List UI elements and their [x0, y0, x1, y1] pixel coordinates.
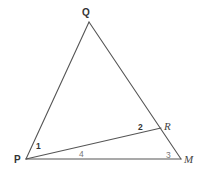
angle-label-2: 2: [138, 122, 143, 132]
segment-pq: [26, 22, 89, 159]
segment-qm: [89, 22, 181, 159]
angle-label-1: 1: [36, 141, 41, 151]
vertex-label-p: P: [14, 154, 21, 165]
angle-label-3: 3: [166, 150, 171, 160]
vertex-label-r: R: [163, 120, 171, 132]
triangle-diagram: Q P R M 1 2 3 4: [0, 0, 203, 171]
vertex-label-q: Q: [82, 7, 90, 18]
vertex-label-m: M: [183, 153, 194, 165]
segment-pr: [26, 128, 161, 159]
angle-label-4: 4: [79, 149, 84, 159]
